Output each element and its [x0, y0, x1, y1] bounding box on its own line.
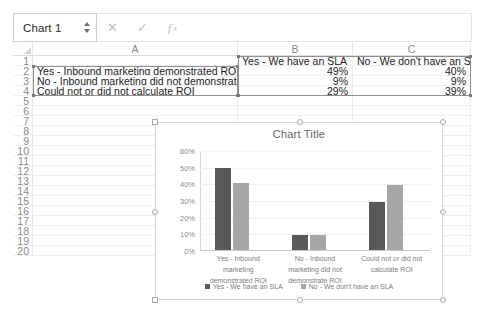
chart-legend[interactable]: Yes - We have an SLANo - We don't have a…	[156, 283, 442, 290]
excel-window: Chart 1 ✕ ✓ ƒx A B C 123456789101112	[0, 0, 478, 332]
y-tick-label: 50%	[180, 163, 195, 172]
y-tick-label: 60%	[180, 147, 195, 156]
chart-title: Chart Title	[156, 128, 442, 140]
bar-0-1[interactable]	[233, 183, 249, 250]
column-header-a-label: A	[131, 43, 138, 55]
legend-item-0[interactable]: Yes - We have an SLA	[205, 283, 283, 290]
chart-plot-area: 0%10%20%30%40%50%60%	[200, 151, 430, 251]
fx-icon[interactable]: ƒx	[157, 14, 187, 41]
column-header-b[interactable]: B	[238, 42, 353, 56]
column-header-c-label: C	[408, 43, 416, 55]
chart-handle-w[interactable]	[152, 209, 158, 215]
formula-input[interactable]	[187, 14, 471, 41]
cell-b3[interactable]: 9%	[238, 76, 353, 86]
column-header-c[interactable]: C	[353, 42, 471, 56]
cell-c2[interactable]: 40%	[353, 66, 471, 76]
chart-handle-se[interactable]	[440, 297, 446, 303]
formula-bar[interactable]: ✕ ✓ ƒx	[97, 13, 472, 42]
gridline-50%	[200, 168, 430, 169]
y-tick-label: 0%	[184, 247, 195, 256]
spinner-up-icon[interactable]	[84, 22, 90, 26]
chart-x-axis	[200, 250, 430, 251]
cell-a2[interactable]: Yes - Inbound marketing demonstrated ROI	[33, 66, 238, 76]
cancel-icon[interactable]: ✕	[97, 14, 127, 41]
chart-category-labels: Yes - Inbound marketing demonstrated ROI…	[200, 254, 430, 287]
name-box-value: Chart 1	[23, 22, 80, 34]
chart-handle-s[interactable]	[297, 297, 303, 303]
cell-a3[interactable]: No - Inbound marketing did not demonstra…	[33, 76, 238, 86]
bar-1-1[interactable]	[310, 235, 326, 250]
cell-b6[interactable]	[238, 106, 353, 116]
row-header-20[interactable]: 20	[13, 246, 33, 256]
cell-a5[interactable]	[33, 96, 238, 106]
y-tick-label: 10%	[180, 230, 195, 239]
chart-handle-ne[interactable]	[440, 119, 446, 125]
legend-swatch-0	[205, 284, 210, 289]
select-all-triangle-icon	[24, 47, 31, 54]
cell-c5[interactable]	[353, 96, 471, 106]
cell-b5[interactable]	[238, 96, 353, 106]
legend-label-0: Yes - We have an SLA	[213, 283, 283, 290]
bar-2-0[interactable]	[369, 202, 385, 250]
chart-handle-sw[interactable]	[152, 297, 158, 303]
chart-object[interactable]: Chart Title 0%10%20%30%40%50%60% Yes - I…	[155, 122, 443, 300]
category-label-2: Could not or did not calculate ROI	[353, 254, 430, 287]
chart-handle-n[interactable]	[297, 119, 303, 125]
bar-0-0[interactable]	[215, 168, 231, 250]
chart-handle-e[interactable]	[440, 209, 446, 215]
legend-swatch-1	[301, 284, 306, 289]
y-tick-label: 20%	[180, 213, 195, 222]
cell-a6[interactable]	[33, 106, 238, 116]
spinner-down-icon[interactable]	[84, 29, 90, 33]
cell-b4[interactable]: 29%	[238, 86, 353, 96]
bar-2-1[interactable]	[387, 185, 403, 250]
column-header-a[interactable]: A	[33, 42, 238, 56]
cell-a4[interactable]: Could not or did not calculate ROI	[33, 86, 238, 96]
cell-c4[interactable]: 39%	[353, 86, 471, 96]
y-tick-label: 40%	[180, 180, 195, 189]
bar-1-0[interactable]	[292, 235, 308, 250]
cell-c6[interactable]	[353, 106, 471, 116]
category-label-0: Yes - Inbound marketing demonstrated ROI	[200, 254, 277, 287]
cell-b1[interactable]: Yes - We have an SLA	[238, 56, 353, 66]
y-tick-label: 30%	[180, 197, 195, 206]
check-icon[interactable]: ✓	[127, 14, 157, 41]
cell-a1[interactable]	[33, 56, 238, 66]
formula-bar-row: Chart 1 ✕ ✓ ƒx	[0, 13, 478, 42]
gridline-60%	[200, 151, 430, 152]
name-box-spinner[interactable]	[80, 14, 93, 41]
cell-c3[interactable]: 9%	[353, 76, 471, 86]
legend-label-1: No - We don't have an SLA	[309, 283, 393, 290]
cell-c1[interactable]: No - We don't have an SLA	[353, 56, 471, 66]
cell-b2[interactable]: 49%	[238, 66, 353, 76]
name-box[interactable]: Chart 1	[13, 13, 97, 42]
legend-item-1[interactable]: No - We don't have an SLA	[301, 283, 393, 290]
category-label-1: No - Inbound marketing did not demonstra…	[277, 254, 354, 287]
chart-handle-nw[interactable]	[152, 119, 158, 125]
column-header-b-label: B	[291, 43, 298, 55]
